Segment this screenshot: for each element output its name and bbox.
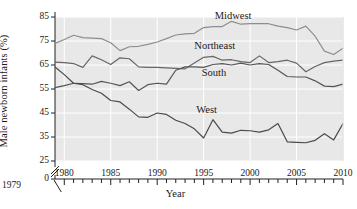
y-tick-label: 55 (27, 84, 49, 94)
x-tick-label: 2005 (277, 168, 317, 178)
x-tick-label: 1990 (137, 168, 177, 178)
y-tick-label: 25 (27, 156, 49, 166)
x-tick-label: 1985 (91, 168, 131, 178)
series-label-west: West (196, 104, 217, 115)
y-tick-label: 75 (27, 36, 49, 46)
x-tick-label: 1995 (184, 168, 224, 178)
x-tick-label: 1980 (44, 168, 84, 178)
x-axis-title: Year (0, 188, 351, 199)
series-label-midwest: Midwest (215, 10, 252, 21)
x-tick-label: 2000 (230, 168, 270, 178)
series-label-northeast: Northeast (194, 40, 235, 51)
y-tick-label: 65 (27, 60, 49, 70)
y-tick-label: 35 (27, 132, 49, 142)
y-tick-label: 85 (27, 12, 49, 22)
y-tick-label: 45 (27, 108, 49, 118)
series-label-south: South (202, 67, 227, 78)
x-tick-label: 2010 (323, 168, 357, 178)
